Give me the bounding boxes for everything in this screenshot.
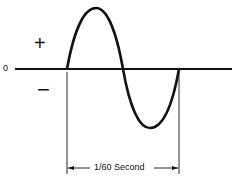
arrow-left-icon bbox=[68, 166, 74, 170]
negative-half-label: − bbox=[37, 79, 50, 101]
period-label: 1/60 Second bbox=[92, 162, 147, 172]
positive-half-label: + bbox=[34, 33, 46, 53]
axis-zero-label: 0 bbox=[3, 63, 8, 73]
arrow-right-icon bbox=[172, 166, 178, 170]
sine-wave-diagram bbox=[0, 0, 239, 179]
